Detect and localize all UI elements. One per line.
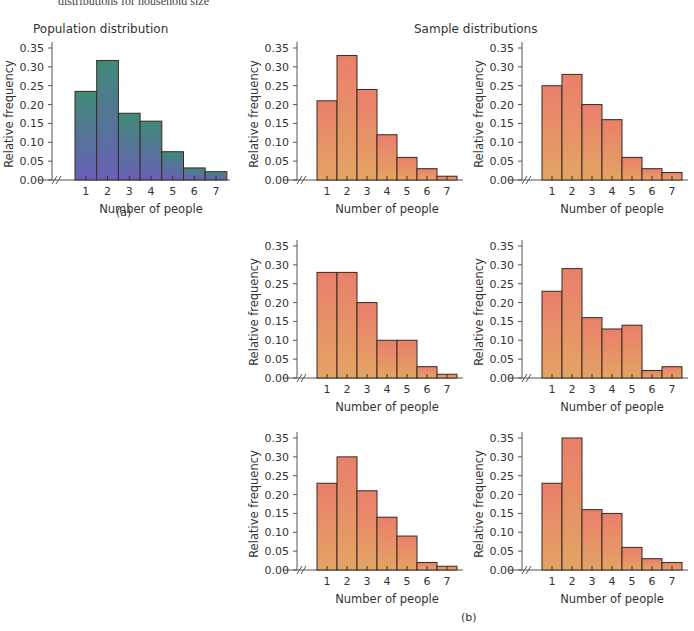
x-tick-label: 3 — [126, 185, 133, 198]
x-tick-label: 3 — [364, 185, 371, 198]
histogram-sample-4: 0.000.050.100.150.200.250.300.351234567N… — [470, 236, 694, 420]
histogram-svg: 0.000.050.100.150.200.250.300.351234567N… — [0, 38, 230, 218]
panel-label-b: (b) — [461, 611, 477, 624]
x-tick-label: 4 — [609, 185, 616, 198]
y-tick-label: 0.30 — [20, 61, 45, 74]
histogram-sample-5: 0.000.050.100.150.200.250.300.351234567N… — [245, 428, 475, 612]
y-tick-label: 0.05 — [490, 545, 515, 558]
histogram-bar — [162, 152, 184, 180]
histogram-bar — [118, 113, 140, 180]
histogram-sample-2: 0.000.050.100.150.200.250.300.351234567N… — [470, 38, 694, 222]
x-tick-label: 6 — [649, 185, 656, 198]
histogram-bar — [75, 91, 97, 180]
y-tick-label: 0.15 — [490, 117, 515, 130]
y-tick-label: 0.15 — [265, 507, 290, 520]
y-axis-label: Relative frequency — [472, 450, 486, 558]
x-tick-label: 3 — [364, 383, 371, 396]
histogram-sample-1: 0.000.050.100.150.200.250.300.351234567N… — [245, 38, 475, 222]
y-tick-label: 0.10 — [265, 334, 290, 347]
y-tick-label: 0.30 — [490, 61, 515, 74]
y-tick-label: 0.25 — [490, 470, 515, 483]
y-tick-label: 0.10 — [265, 136, 290, 149]
histogram-population: 0.000.050.100.150.200.250.300.351234567N… — [0, 38, 230, 222]
x-tick-label: 2 — [569, 575, 576, 588]
x-tick-label: 2 — [104, 185, 111, 198]
histogram-bar — [602, 120, 622, 180]
x-tick-label: 1 — [324, 383, 331, 396]
histogram-bar — [317, 483, 337, 570]
histogram-bar — [337, 457, 357, 570]
x-axis-label: Number of people — [99, 202, 203, 216]
x-tick-label: 4 — [147, 185, 154, 198]
histogram-bar — [562, 269, 582, 378]
histogram-bar — [542, 483, 562, 570]
y-tick-label: 0.35 — [265, 432, 290, 445]
x-tick-label: 1 — [82, 185, 89, 198]
x-tick-label: 2 — [569, 185, 576, 198]
y-tick-label: 0.15 — [490, 507, 515, 520]
x-axis-label: Number of people — [335, 592, 439, 606]
x-tick-label: 6 — [424, 185, 431, 198]
histogram-svg: 0.000.050.100.150.200.250.300.351234567N… — [245, 236, 475, 416]
histogram-bar — [582, 510, 602, 570]
y-tick-label: 0.30 — [265, 259, 290, 272]
y-tick-label: 0.35 — [490, 432, 515, 445]
population-title: Population distribution — [33, 22, 168, 36]
histogram-bar — [582, 318, 602, 378]
y-axis-label: Relative frequency — [2, 60, 16, 168]
y-tick-label: 0.10 — [490, 334, 515, 347]
x-tick-label: 2 — [344, 383, 351, 396]
histogram-svg: 0.000.050.100.150.200.250.300.351234567N… — [470, 236, 694, 416]
y-tick-label: 0.20 — [20, 99, 45, 112]
y-tick-label: 0.15 — [490, 315, 515, 328]
x-tick-label: 1 — [549, 575, 556, 588]
y-tick-label: 0.30 — [265, 61, 290, 74]
x-tick-label: 7 — [444, 185, 451, 198]
y-tick-label: 0.15 — [20, 117, 45, 130]
histogram-bar — [337, 56, 357, 180]
x-tick-label: 6 — [424, 383, 431, 396]
x-tick-label: 1 — [549, 185, 556, 198]
histogram-bar — [562, 74, 582, 180]
y-tick-label: 0.35 — [20, 42, 45, 55]
histogram-bar — [337, 272, 357, 378]
y-tick-label: 0.35 — [490, 42, 515, 55]
x-tick-label: 5 — [629, 185, 636, 198]
y-tick-label: 0.25 — [490, 80, 515, 93]
x-tick-label: 2 — [569, 383, 576, 396]
histogram-svg: 0.000.050.100.150.200.250.300.351234567N… — [470, 428, 694, 608]
x-axis-label: Number of people — [560, 202, 664, 216]
x-tick-label: 3 — [364, 575, 371, 588]
x-tick-label: 3 — [589, 575, 596, 588]
y-tick-label: 0.00 — [265, 174, 290, 187]
x-tick-label: 4 — [384, 575, 391, 588]
histogram-bar — [542, 291, 562, 378]
histogram-bar — [562, 438, 582, 570]
sample-title: Sample distributions — [414, 22, 537, 36]
y-tick-label: 0.05 — [265, 155, 290, 168]
y-tick-label: 0.00 — [490, 564, 515, 577]
y-tick-label: 0.25 — [490, 278, 515, 291]
x-tick-label: 7 — [669, 575, 676, 588]
histogram-bar — [357, 303, 377, 378]
y-axis-label: Relative frequency — [247, 60, 261, 168]
y-tick-label: 0.20 — [265, 489, 290, 502]
y-tick-label: 0.20 — [265, 99, 290, 112]
x-tick-label: 7 — [669, 185, 676, 198]
histogram-svg: 0.000.050.100.150.200.250.300.351234567N… — [470, 38, 694, 218]
y-tick-label: 0.20 — [490, 99, 515, 112]
y-tick-label: 0.05 — [490, 353, 515, 366]
y-tick-label: 0.25 — [20, 80, 45, 93]
x-tick-label: 5 — [629, 575, 636, 588]
histogram-bar — [140, 121, 162, 180]
x-axis-label: Number of people — [560, 592, 664, 606]
x-tick-label: 4 — [384, 185, 391, 198]
y-tick-label: 0.30 — [490, 451, 515, 464]
y-tick-label: 0.35 — [265, 42, 290, 55]
y-tick-label: 0.05 — [20, 155, 45, 168]
histogram-bar — [397, 340, 417, 378]
x-tick-label: 3 — [589, 383, 596, 396]
x-tick-label: 6 — [649, 383, 656, 396]
x-tick-label: 5 — [169, 185, 176, 198]
y-tick-label: 0.10 — [20, 136, 45, 149]
